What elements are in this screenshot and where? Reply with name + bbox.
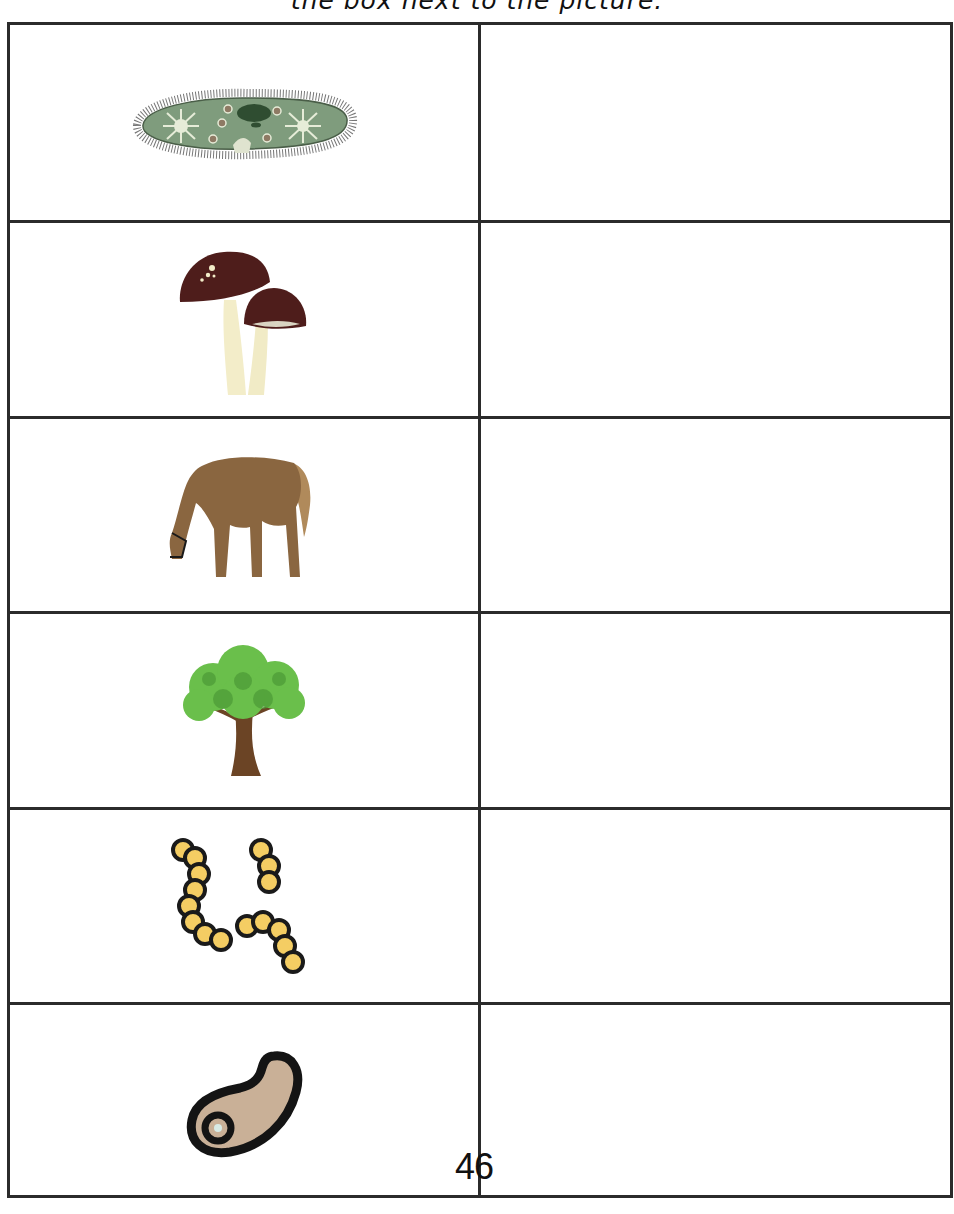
- picture-cell: [10, 419, 478, 611]
- tree-icon: [179, 641, 309, 781]
- picture-cell: [10, 1005, 478, 1195]
- answer-box[interactable]: [481, 25, 950, 220]
- cell-icon: [184, 1050, 304, 1160]
- picture-cell: [10, 25, 478, 220]
- worksheet-table: [7, 22, 953, 1198]
- picture-cell: [10, 810, 478, 1002]
- answer-box[interactable]: [481, 1005, 950, 1195]
- answer-box[interactable]: [481, 223, 950, 416]
- horse-icon: [164, 445, 324, 585]
- table-row: [10, 807, 950, 1002]
- mushroom-icon: [174, 240, 314, 400]
- page-number: 46: [455, 1146, 493, 1188]
- answer-box[interactable]: [481, 810, 950, 1002]
- picture-cell: [10, 223, 478, 416]
- bacteria-cocci-icon: [169, 836, 319, 976]
- paramecium-icon: [129, 83, 359, 163]
- table-row: [10, 220, 950, 416]
- answer-box[interactable]: [481, 614, 950, 807]
- table-row: [10, 416, 950, 611]
- table-row: [10, 25, 950, 220]
- answer-box[interactable]: [481, 419, 950, 611]
- table-row: [10, 611, 950, 807]
- picture-cell: [10, 614, 478, 807]
- instruction-text: the box next to the picture.: [0, 0, 954, 15]
